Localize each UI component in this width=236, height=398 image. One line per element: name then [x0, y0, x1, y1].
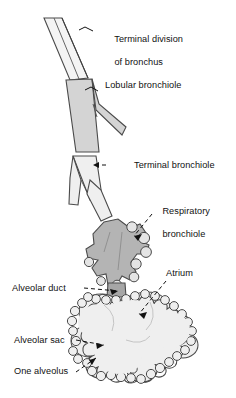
label-respiratory-line1: Respiratory: [162, 206, 210, 216]
label-respiratory-line2: bronchiole: [162, 229, 205, 239]
label-atrium: Atrium: [166, 268, 193, 280]
terminal-bronchiole-shape: [69, 156, 112, 221]
leader-terminal-division: [79, 27, 93, 31]
terminal-division-of-bronchus-shape: [44, 18, 88, 80]
label-terminal-bronchiole: Terminal bronchiole: [134, 160, 215, 172]
label-terminal-division-of-bronchus: Terminal division of bronchus: [104, 22, 183, 80]
respiratory-tree-figure: Terminal division of bronchus Lobular br…: [0, 0, 236, 398]
respiratory-bronchiole-shape: [84, 219, 151, 290]
alveolar-duct-shape: [107, 283, 126, 297]
label-terminal-division-line1: Terminal division: [114, 34, 183, 44]
label-terminal-division-line2: of bronchus: [114, 57, 163, 67]
label-alveolar-duct: Alveolar duct: [12, 283, 66, 295]
label-one-alveolus: One alveolus: [14, 366, 68, 378]
label-respiratory-bronchiole: Respiratory bronchiole: [152, 194, 210, 252]
label-alveolar-sac: Alveolar sac: [14, 335, 65, 347]
label-lobular-bronchiole: Lobular bronchiole: [105, 80, 182, 92]
alveolar-sac-cluster-shape: [67, 290, 198, 384]
